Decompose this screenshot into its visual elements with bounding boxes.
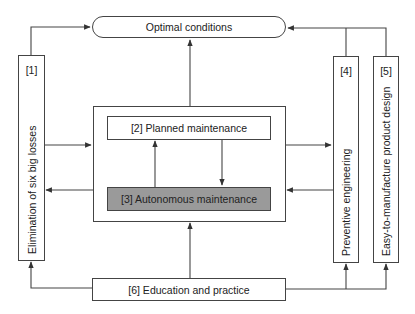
education-practice-label: [6] Education and practice — [128, 284, 249, 296]
autonomous-maintenance-label: [3] Autonomous maintenance — [121, 193, 257, 205]
education-practice-node: [6] Education and practice — [92, 278, 286, 301]
pillar-1-node: [1] Elimination of six big losses — [18, 55, 45, 261]
optimal-conditions-label: Optimal conditions — [146, 21, 232, 33]
pillar-5-number: [5] — [374, 65, 398, 77]
pillar-1-label: Elimination of six big losses — [26, 126, 38, 254]
optimal-conditions-node: Optimal conditions — [92, 16, 286, 38]
pillar-4-number: [4] — [334, 65, 358, 77]
planned-maintenance-node: [2] Planned maintenance — [107, 116, 271, 140]
pillar-1-number: [1] — [19, 64, 44, 76]
pillar-4-label: Preventive engineering — [340, 149, 352, 256]
pillar-5-label: Easy-to-manufacture product design — [380, 87, 392, 256]
pillar-5-node: [5] Easy-to-manufacture product design — [373, 56, 399, 263]
pillar-4-node: [4] Preventive engineering — [333, 56, 359, 263]
autonomous-maintenance-node: [3] Autonomous maintenance — [107, 187, 271, 211]
planned-maintenance-label: [2] Planned maintenance — [131, 122, 247, 134]
